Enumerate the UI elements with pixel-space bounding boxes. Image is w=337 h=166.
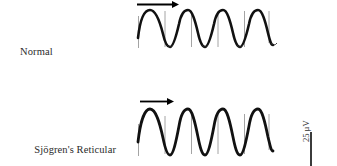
scale-bar: 25 µV [305,128,337,166]
sjogren-waveform-path [138,109,273,155]
stimulus-onset-arrow [140,98,174,105]
trace-label-normal: Normal [20,21,53,84]
trace-label-sjogren-line-1: Sjögren's Reticular [0,144,116,157]
trace-label-normal-line-1: Normal [20,46,53,59]
trough-notch-markers [167,43,277,47]
normal-waveform-path [138,10,273,47]
scale-bar-label: 25 µV [300,106,312,142]
sjogren-waveform-plot [130,94,280,166]
trace-panel-sjogren [130,94,280,166]
erg-waveform-figure: Normal [0,0,337,166]
normal-waveform-plot [130,0,280,60]
trace-panel-normal [130,0,280,60]
trace-label-sjogren: Sjögren's Reticular Dystrophy [0,119,116,166]
stimulus-onset-arrow [137,1,179,8]
